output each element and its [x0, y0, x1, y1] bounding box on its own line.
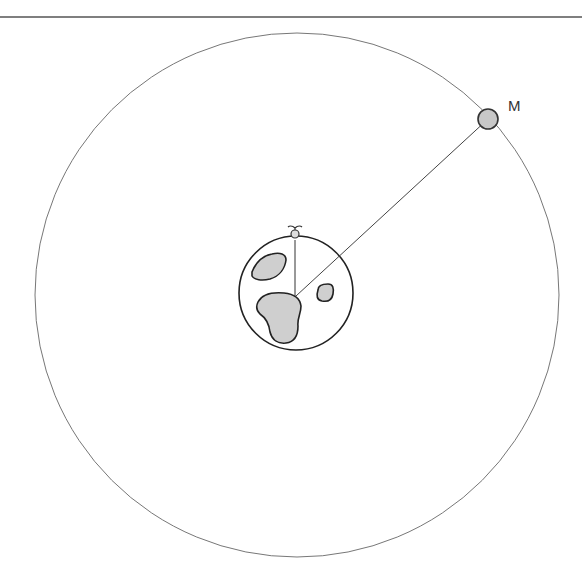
moon-label: M	[508, 97, 521, 114]
earth-moon-diagram	[0, 0, 582, 577]
earth	[239, 236, 353, 350]
moon	[478, 109, 498, 129]
continent-right	[317, 284, 333, 301]
earth-moon-line	[296, 119, 488, 296]
